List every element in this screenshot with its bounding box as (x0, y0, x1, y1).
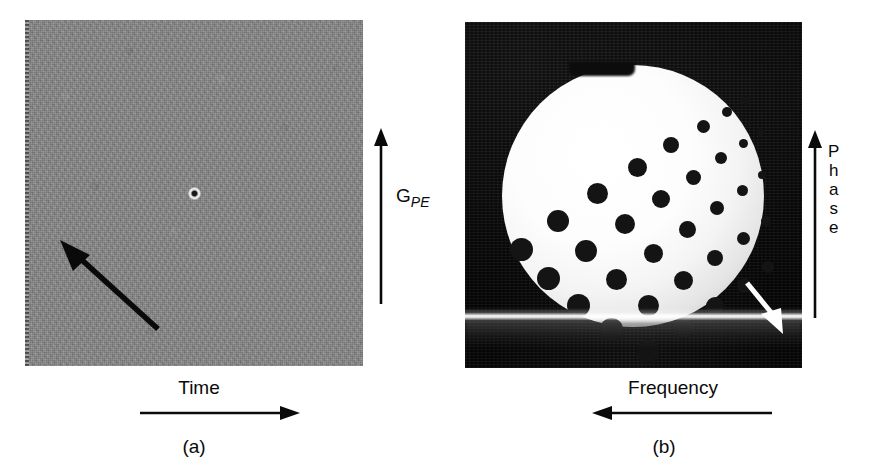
phase-axis-label: P h a s e (828, 142, 839, 237)
phantom-dot (575, 240, 597, 262)
phantom-dot (615, 214, 635, 234)
phantom-dot (739, 139, 748, 148)
phase-letter-5: e (829, 218, 838, 237)
figure-root: GPE Time (a) P h a s e (0, 0, 871, 474)
phase-letter-2: h (829, 161, 838, 180)
phantom-dot (679, 221, 696, 238)
phantom-dot (707, 250, 723, 266)
phantom-dot (761, 216, 771, 226)
gpe-axis-arrow-icon (372, 128, 392, 306)
phase-letter-4: s (829, 199, 838, 218)
phase-letter-1: P (828, 142, 839, 161)
gpe-label-subscript: PE (411, 194, 430, 210)
gpe-label-main: G (396, 185, 411, 206)
phase-axis-annotation: P h a s e (806, 130, 868, 320)
phantom-dot (606, 269, 627, 290)
phantom-dot (742, 97, 750, 105)
phantom-dot (762, 261, 774, 273)
phase-axis-arrow-icon (806, 130, 826, 320)
phantom-dot (757, 129, 764, 136)
reconstructed-phantom-image (465, 22, 802, 368)
phantom-dot (628, 158, 647, 177)
kspace-left-edge-sampling (25, 20, 29, 366)
frequency-axis-annotation: Frequency (592, 378, 792, 432)
phantom-dot (674, 271, 693, 290)
frequency-axis-label: Frequency (592, 378, 754, 397)
phantom-dot (510, 238, 533, 261)
time-axis-arrow-icon (140, 404, 300, 422)
phantom-dot (663, 137, 679, 153)
phantom-dot (697, 120, 710, 133)
panel-a-caption: (a) (159, 437, 229, 456)
phantom-dot (737, 232, 750, 245)
phantom-dot (537, 267, 560, 290)
phase-letter-3: a (829, 180, 838, 199)
phantom-dot (644, 244, 663, 263)
gpe-axis-annotation: GPE (372, 128, 440, 306)
kspace-raw-data-image (25, 20, 363, 366)
time-axis-label: Time (140, 378, 258, 397)
kspace-center-dc-point (188, 187, 201, 200)
phantom-dot (722, 107, 732, 117)
time-axis-annotation: Time (140, 378, 320, 432)
frequency-axis-arrow-icon (592, 404, 772, 422)
phantom-dot (547, 210, 569, 232)
phantom-dot (710, 201, 724, 215)
phantom-dot (737, 185, 748, 196)
gpe-axis-label: GPE (396, 186, 430, 209)
phantom-dot (715, 152, 727, 164)
artifact-pointer-arrow (741, 280, 799, 342)
phantom-dot (652, 190, 670, 208)
phantom-dot (758, 171, 766, 179)
panel-b-caption: (b) (629, 437, 699, 456)
phantom-dot (686, 170, 701, 185)
phantom-dot (587, 183, 608, 204)
